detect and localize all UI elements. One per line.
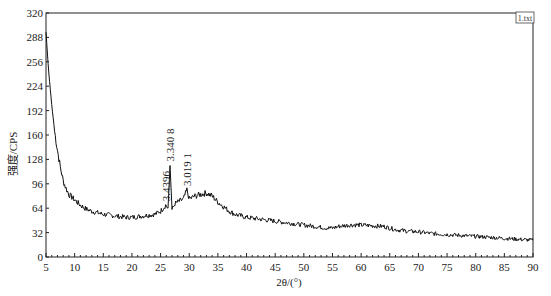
x-tick-label: 85 <box>499 261 511 273</box>
peak-annotations: 3.43963.340 83.019 1 <box>160 128 193 201</box>
x-tick-label: 45 <box>270 261 282 273</box>
x-tick-label: 15 <box>98 261 110 273</box>
plot-frame <box>46 13 533 257</box>
x-tick-label: 10 <box>69 261 81 273</box>
x-axis-ticks: 51015202530354045505560657075808590 <box>43 253 539 273</box>
y-tick-label: 64 <box>32 202 44 214</box>
y-tick-label: 288 <box>27 31 44 43</box>
x-tick-label: 70 <box>413 261 425 273</box>
y-tick-label: 320 <box>27 7 44 19</box>
x-tick-label: 20 <box>126 261 138 273</box>
y-tick-label: 256 <box>27 56 44 68</box>
y-tick-label: 96 <box>32 178 44 190</box>
y-tick-label: 224 <box>27 80 44 92</box>
legend: 1.txt <box>516 12 534 23</box>
x-tick-label: 35 <box>212 261 224 273</box>
x-tick-label: 30 <box>184 261 196 273</box>
x-tick-label: 55 <box>327 261 339 273</box>
y-tick-label: 192 <box>27 105 44 117</box>
x-axis-title: 2θ/(°) <box>276 276 302 289</box>
x-tick-label: 5 <box>43 261 49 273</box>
peak-label: 3.019 1 <box>181 153 193 186</box>
x-tick-label: 40 <box>241 261 253 273</box>
peak-label: 3.4396 <box>160 170 172 201</box>
x-tick-label: 75 <box>442 261 454 273</box>
x-tick-label: 50 <box>298 261 310 273</box>
data-series-line <box>46 32 533 241</box>
legend-entry: 1.txt <box>518 14 533 23</box>
x-tick-label: 25 <box>155 261 167 273</box>
xrd-chart: 0326496128160192224256288320 51015202530… <box>0 0 551 296</box>
y-tick-label: 128 <box>27 153 44 165</box>
y-axis-title: 强度/CPS <box>6 132 19 177</box>
y-tick-label: 32 <box>32 227 43 239</box>
x-tick-label: 60 <box>356 261 368 273</box>
x-tick-label: 80 <box>470 261 482 273</box>
x-tick-label: 90 <box>528 261 540 273</box>
x-tick-label: 65 <box>384 261 396 273</box>
y-tick-label: 160 <box>27 129 44 141</box>
peak-label: 3.340 8 <box>164 128 176 162</box>
